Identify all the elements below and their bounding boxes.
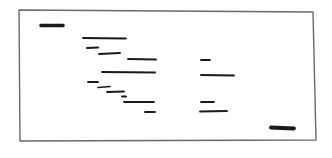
bottom-right-block [271, 128, 294, 129]
line-e [102, 72, 155, 73]
line-g [98, 87, 110, 88]
line-d [128, 59, 156, 60]
line-m [201, 75, 234, 76]
line-c [99, 53, 120, 54]
line-h [107, 92, 124, 93]
line-a [83, 38, 126, 39]
layout-sketch [0, 0, 332, 158]
line-b [87, 48, 98, 49]
line-o [200, 111, 227, 112]
